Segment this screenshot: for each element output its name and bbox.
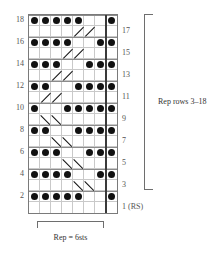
- row-separator: [29, 37, 117, 38]
- row-number-right: 1 (RS): [122, 203, 143, 211]
- grid-cell: [73, 136, 84, 147]
- grid-cell: [106, 202, 117, 213]
- bracket-right-tick: [103, 221, 104, 228]
- grid-cell: [84, 92, 95, 103]
- repeat-boundary-line: [105, 15, 107, 213]
- grid-cell: [84, 136, 95, 147]
- grid-cell: [40, 136, 51, 147]
- grid-cell: [84, 202, 95, 213]
- stitch-dot: [75, 193, 82, 200]
- knitting-chart: 18161412108642 1715131197531 (RS) Rep ro…: [0, 0, 222, 259]
- stitch-dot: [97, 149, 104, 156]
- grid-cell: [73, 92, 84, 103]
- grid-cell: [106, 180, 117, 191]
- grid-cell: [62, 147, 73, 158]
- grid-cell: [29, 136, 40, 147]
- row-number-left: 8: [0, 126, 24, 134]
- grid-cell: [62, 125, 73, 136]
- grid-cell: [29, 202, 40, 213]
- grid-cell: [84, 169, 95, 180]
- grid-cell: [62, 81, 73, 92]
- stitch-dot: [108, 149, 115, 156]
- grid-cell: [62, 180, 73, 191]
- grid-cell: [29, 70, 40, 81]
- stitch-dot: [75, 127, 82, 134]
- stitch-dot: [31, 193, 38, 200]
- stitch-dot: [64, 105, 71, 112]
- row-separator: [29, 147, 117, 148]
- grid-cell: [29, 180, 40, 191]
- stitch-dot: [108, 171, 115, 178]
- grid-cell: [106, 70, 117, 81]
- grid-cell: [40, 202, 51, 213]
- stitch-dot: [97, 83, 104, 90]
- stitch-dot: [108, 193, 115, 200]
- stitch-dot: [31, 17, 38, 24]
- row-number-left: 18: [0, 16, 24, 24]
- stitch-dot: [108, 105, 115, 112]
- grid-cell: [84, 15, 95, 26]
- stitch-dot: [53, 149, 60, 156]
- grid-cell: [51, 158, 62, 169]
- stitch-dot: [42, 193, 49, 200]
- grid-cell: [106, 48, 117, 59]
- stitch-dot: [86, 127, 93, 134]
- stitch-dot: [86, 105, 93, 112]
- rep-sts-label: Rep = 6sts: [27, 233, 114, 243]
- grid-cell: [51, 81, 62, 92]
- grid-cell: [106, 92, 117, 103]
- stitch-dot: [42, 83, 49, 90]
- grid-cell: [62, 202, 73, 213]
- grid-cell: [29, 48, 40, 59]
- bracket-top-tick: [144, 14, 153, 15]
- stitch-dot: [108, 83, 115, 90]
- row-number-right: 7: [122, 137, 126, 145]
- rep-rows-label: Rep rows 3–18: [158, 97, 206, 107]
- row-separator: [29, 103, 117, 104]
- grid-cell: [84, 158, 95, 169]
- grid-cell: [73, 59, 84, 70]
- stitch-dot: [97, 171, 104, 178]
- grid-cell: [73, 202, 84, 213]
- row-number-left: 14: [0, 60, 24, 68]
- bracket-bottom-tick: [144, 189, 153, 190]
- stitch-dot: [53, 171, 60, 178]
- row-number-right: 5: [122, 159, 126, 167]
- grid-cell: [84, 48, 95, 59]
- grid-cell: [29, 26, 40, 37]
- row-number-right: 17: [122, 27, 130, 35]
- stitch-dot: [42, 17, 49, 24]
- grid-cell: [29, 114, 40, 125]
- stitch-dot: [31, 127, 38, 134]
- grid-cell: [84, 191, 95, 202]
- grid-cell: [51, 125, 62, 136]
- stitch-dot: [108, 17, 115, 24]
- grid-cell: [62, 59, 73, 70]
- row-number-left: 10: [0, 104, 24, 112]
- bracket-horizontal-bar: [37, 221, 104, 222]
- stitch-dot: [97, 127, 104, 134]
- grid-cell: [73, 147, 84, 158]
- grid-cell: [40, 26, 51, 37]
- stitch-dot: [53, 39, 60, 46]
- rep-sts-bracket: [37, 221, 104, 229]
- stitch-dot: [42, 171, 49, 178]
- stitch-dot: [97, 105, 104, 112]
- stitch-dot: [75, 105, 82, 112]
- stitch-dot: [64, 39, 71, 46]
- stitch-dot: [42, 149, 49, 156]
- grid-cell: [84, 37, 95, 48]
- grid-cell: [106, 136, 117, 147]
- stitch-dot: [53, 61, 60, 68]
- chart-grid-wrapper: [28, 14, 118, 214]
- stitch-dot: [108, 39, 115, 46]
- stitch-dot: [42, 127, 49, 134]
- row-number-left: 2: [0, 192, 24, 200]
- grid-cell: [51, 202, 62, 213]
- grid-cell: [106, 26, 117, 37]
- grid-cell: [84, 70, 95, 81]
- stitch-dot: [86, 149, 93, 156]
- chart-grid: [28, 14, 118, 214]
- row-number-right: 3: [122, 181, 126, 189]
- stitch-dot: [31, 83, 38, 90]
